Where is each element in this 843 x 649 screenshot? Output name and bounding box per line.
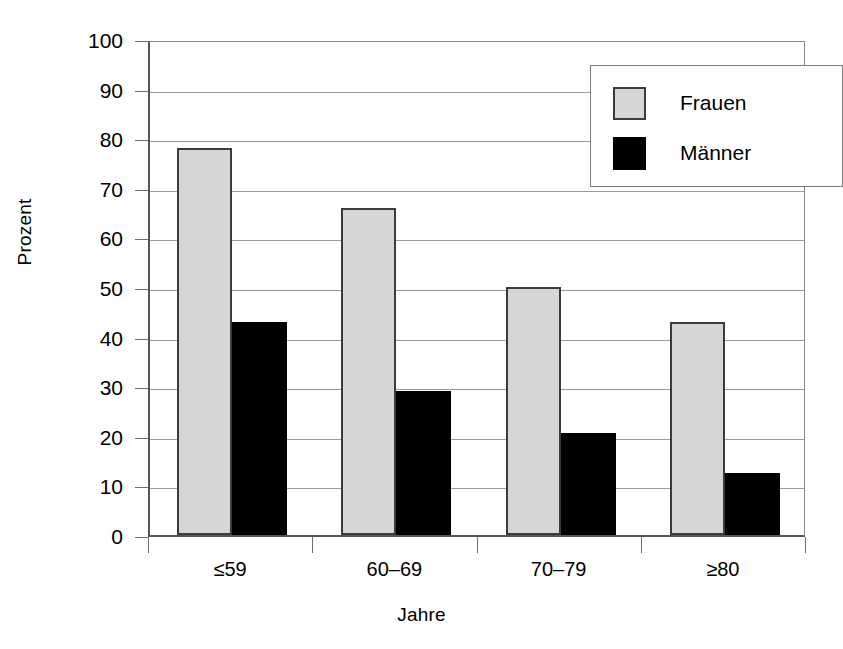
legend-swatch-maenner [613, 137, 646, 170]
gridline [150, 191, 804, 192]
y-tick-label: 30 [3, 377, 123, 398]
y-tick-label: 80 [3, 129, 123, 150]
bar-maenner-1 [396, 391, 451, 535]
y-tick-label: 100 [3, 30, 123, 51]
x-tick-label: 60–69 [319, 558, 469, 581]
x-tick-label: ≥80 [648, 558, 798, 581]
y-tick-label: 60 [3, 228, 123, 249]
y-tick-mark [135, 140, 148, 141]
bar-maenner-0 [232, 322, 287, 535]
x-tick-mark [148, 537, 149, 553]
x-axis-title: Jahre [0, 604, 843, 626]
legend: Frauen Männer [590, 65, 843, 187]
bar-maenner-2 [561, 433, 616, 535]
y-tick-mark [135, 289, 148, 290]
y-axis-ticks: 0102030405060708090100 [0, 0, 148, 649]
x-tick-label: 70–79 [484, 558, 634, 581]
x-tick-mark [641, 537, 642, 553]
gridline [150, 290, 804, 291]
bar-frauen-3 [670, 322, 725, 535]
y-tick-label: 90 [3, 80, 123, 101]
legend-item-frauen: Frauen [613, 86, 747, 120]
x-tick-mark [805, 537, 806, 553]
bar-frauen-0 [177, 148, 232, 535]
y-tick-mark [135, 190, 148, 191]
page-bottom-band [0, 645, 843, 649]
y-tick-mark [135, 438, 148, 439]
legend-label-frauen: Frauen [680, 91, 747, 115]
y-tick-label: 70 [3, 179, 123, 200]
y-tick-mark [135, 487, 148, 488]
bar-frauen-1 [341, 208, 396, 535]
y-tick-label: 10 [3, 476, 123, 497]
bar-frauen-2 [506, 287, 561, 535]
y-tick-mark [135, 41, 148, 42]
legend-label-maenner: Männer [680, 141, 751, 165]
x-tick-mark [477, 537, 478, 553]
gridline [150, 240, 804, 241]
x-tick-label: ≤59 [155, 558, 305, 581]
y-tick-label: 0 [3, 526, 123, 547]
y-tick-mark [135, 537, 148, 538]
y-tick-mark [135, 239, 148, 240]
legend-item-maenner: Männer [613, 136, 751, 170]
y-tick-mark [135, 339, 148, 340]
y-tick-mark [135, 388, 148, 389]
y-tick-mark [135, 91, 148, 92]
legend-swatch-frauen [613, 87, 646, 120]
x-tick-mark [312, 537, 313, 553]
y-tick-label: 50 [3, 278, 123, 299]
y-tick-label: 20 [3, 427, 123, 448]
y-tick-label: 40 [3, 328, 123, 349]
bar-maenner-3 [725, 473, 780, 535]
chart-figure: Prozent 0102030405060708090100 ≤5960–697… [0, 0, 843, 649]
